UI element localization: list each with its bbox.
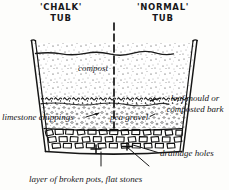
label-leaf-mould: leaf mould or composted bark bbox=[163, 93, 227, 114]
compost-layer bbox=[28, 43, 203, 99]
broken-pots-layer bbox=[45, 129, 183, 148]
label-drainage-holes: drainage holes bbox=[160, 148, 214, 159]
label-chalk-tub-line2: TUB bbox=[50, 13, 71, 23]
label-broken-pots: layer of broken pots, flat stones bbox=[29, 174, 142, 185]
label-pea-gravel: pea gravel bbox=[110, 112, 148, 123]
label-chalk-tub: 'CHALK' TUB bbox=[24, 2, 98, 24]
tub-cross-section-artboard: 'CHALK' TUB 'NORMAL' TUB compost leaf mo… bbox=[0, 0, 229, 190]
label-chalk-tub-line1: 'CHALK' bbox=[40, 2, 82, 12]
label-normal-tub-line2: TUB bbox=[152, 13, 173, 23]
label-normal-tub: 'NORMAL' TUB bbox=[122, 2, 204, 24]
leader-drainage bbox=[133, 145, 158, 153]
diagram-page: 'CHALK' TUB 'NORMAL' TUB compost leaf mo… bbox=[0, 0, 229, 190]
label-limestone-chippings: limestone chippings bbox=[2, 112, 74, 123]
label-compost: compost bbox=[78, 63, 108, 74]
leader-pots-right bbox=[127, 147, 149, 166]
label-normal-tub-line1: 'NORMAL' bbox=[137, 2, 189, 12]
